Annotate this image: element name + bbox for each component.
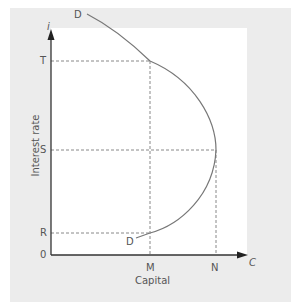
origin-label: 0: [40, 250, 46, 260]
y-axis-label: Interest rate: [30, 101, 41, 191]
curve-label-bottom: D: [126, 237, 134, 247]
tick-r: R: [40, 228, 47, 238]
tick-s: S: [40, 145, 46, 155]
curve-label-top: D: [74, 10, 82, 20]
tick-m: M: [146, 263, 155, 273]
x-axis-label: Capital: [135, 276, 170, 286]
y-axis-symbol: i: [47, 22, 50, 32]
x-axis-symbol: C: [249, 258, 256, 268]
tick-n: N: [211, 263, 218, 273]
tick-t: T: [40, 56, 46, 66]
demand-curve: [87, 14, 216, 238]
x-axis-arrow-icon: [237, 252, 248, 259]
axes: [51, 35, 240, 255]
